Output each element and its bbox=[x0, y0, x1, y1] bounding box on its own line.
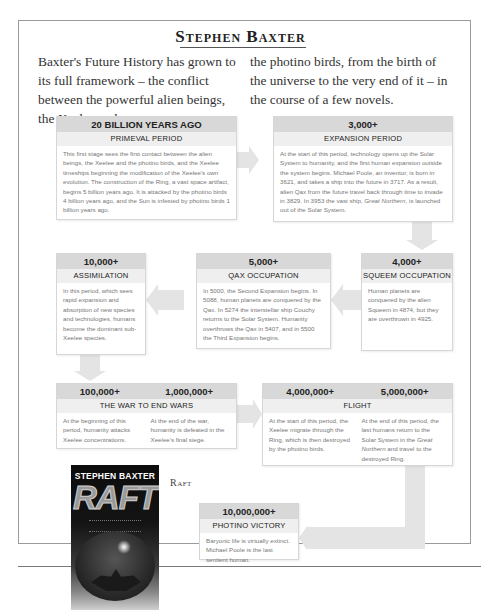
period-label: FLIGHT bbox=[263, 399, 452, 413]
period-label: EXPANSION PERIOD bbox=[274, 132, 452, 146]
timeline-box-expansion: 3,000+ EXPANSION PERIOD At the start of … bbox=[273, 116, 453, 222]
date-start: 100,000+ bbox=[80, 384, 120, 399]
timeline-box-primeval: 20 BILLION YEARS AGO PRIMEVAL PERIOD Thi… bbox=[56, 116, 237, 220]
period-description: At the beginning of this period, humanit… bbox=[57, 413, 236, 448]
page-title: Stephen Baxter bbox=[0, 27, 481, 47]
arrow-left-1 bbox=[343, 290, 361, 310]
arrow-elbow-horizontal bbox=[307, 527, 425, 549]
period-description: At the start of this period, technology … bbox=[274, 146, 452, 219]
date-label: 20 BILLION YEARS AGO bbox=[57, 117, 236, 132]
date-end: 5,000,000+ bbox=[381, 384, 429, 399]
date-start: 4,000,000+ bbox=[286, 384, 334, 399]
description-end: At the end of this period, the last huma… bbox=[362, 416, 447, 463]
period-label: PRIMEVAL PERIOD bbox=[57, 132, 236, 146]
intro-text-right: the photino birds, from the birth of the… bbox=[250, 52, 455, 109]
period-description: Baryonic life is virtually extinct. Mich… bbox=[200, 533, 298, 568]
description-end: At the end of the war, humanity is defea… bbox=[151, 416, 231, 444]
period-description: In 5000, the Second Expansion begins. In… bbox=[197, 283, 330, 346]
date-label: 10,000+ bbox=[57, 254, 145, 269]
arrowhead-right-1 bbox=[249, 146, 259, 174]
period-description: Human planets are conquered by the alien… bbox=[362, 283, 452, 328]
timeline-box-assimilation: 10,000+ ASSIMILATION In this period, whi… bbox=[56, 253, 146, 355]
date-end: 1,000,000+ bbox=[165, 384, 213, 399]
period-description: In this period, which sees rapid expansi… bbox=[57, 283, 145, 346]
period-label: PHOTINO VICTORY bbox=[200, 519, 298, 533]
date-bar: 4,000,000+ 5,000,000+ bbox=[263, 384, 452, 399]
period-label: QAX OCCUPATION bbox=[197, 269, 330, 283]
period-description: This first stage sees the first contact … bbox=[57, 146, 236, 219]
timeline-box-flight: 4,000,000+ 5,000,000+ FLIGHT At the star… bbox=[262, 383, 453, 466]
arrowhead-left-3 bbox=[299, 526, 307, 550]
timeline-box-war: 100,000+ 1,000,000+ THE WAR TO END WARS … bbox=[56, 383, 237, 449]
period-label: ASSIMILATION bbox=[57, 269, 145, 283]
date-label: 4,000+ bbox=[362, 254, 452, 269]
arrowhead-right-2 bbox=[253, 399, 262, 429]
arrowhead-left-2 bbox=[146, 284, 158, 316]
title-underline bbox=[180, 47, 306, 48]
cover-title: RAFT bbox=[71, 481, 159, 515]
arrow-down-2 bbox=[80, 355, 100, 371]
arrow-right-1 bbox=[237, 152, 249, 168]
ship-name: Great Northern bbox=[364, 197, 405, 204]
period-label: SQUEEM OCCUPATION bbox=[362, 269, 452, 283]
date-label: 5,000+ bbox=[197, 254, 330, 269]
date-bar: 100,000+ 1,000,000+ bbox=[57, 384, 236, 399]
period-label: THE WAR TO END WARS bbox=[57, 399, 236, 413]
arrow-down-1 bbox=[412, 222, 432, 240]
arrowhead-down-1 bbox=[406, 240, 438, 250]
arrow-left-2 bbox=[158, 290, 184, 310]
date-label: 10,000,000+ bbox=[200, 504, 298, 519]
timeline-box-squeem: 4,000+ SQUEEM OCCUPATION Human planets a… bbox=[361, 253, 453, 351]
period-description: At the start of this period, the Xeelee … bbox=[263, 413, 452, 467]
description-start: At the beginning of this period, humanit… bbox=[63, 416, 143, 444]
timeline-box-photino: 10,000,000+ PHOTINO VICTORY Baryonic lif… bbox=[199, 503, 299, 560]
star-icon bbox=[117, 540, 131, 554]
arrowhead-left-1 bbox=[331, 284, 343, 316]
cover-caption: Raft bbox=[170, 477, 192, 488]
book-cover-image: STEPHEN BAXTER RAFT bbox=[71, 465, 159, 610]
arrowhead-down-2 bbox=[74, 371, 106, 381]
timeline-box-qax: 5,000+ QAX OCCUPATION In 5000, the Secon… bbox=[196, 253, 331, 349]
date-label: 3,000+ bbox=[274, 117, 452, 132]
description-start: At the start of this period, the Xeelee … bbox=[269, 416, 354, 463]
arrow-right-2 bbox=[237, 405, 253, 423]
